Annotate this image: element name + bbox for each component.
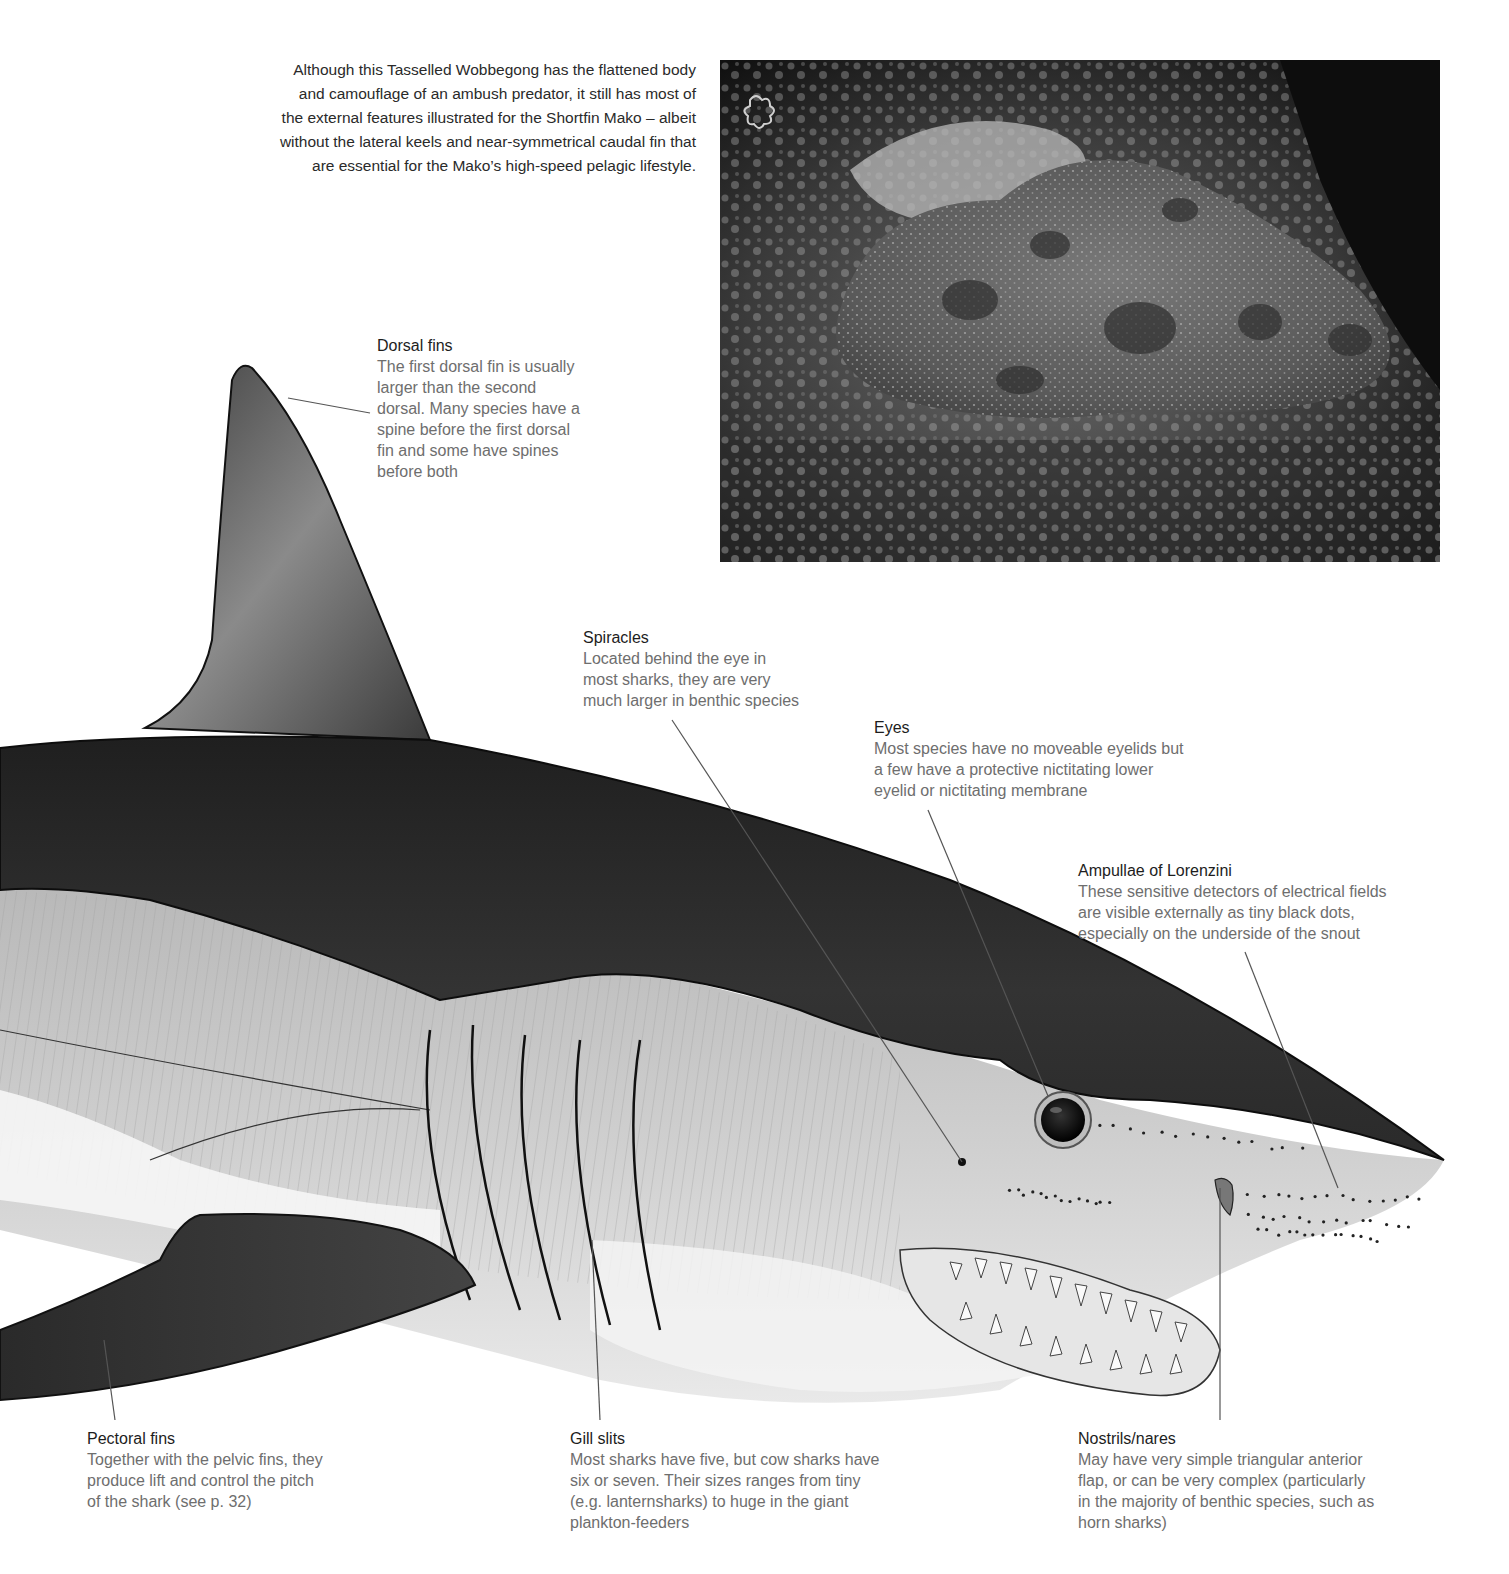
ampulla-dot: [1129, 1127, 1132, 1130]
label-line: May have very simple triangular anterior: [1078, 1449, 1374, 1470]
ampulla-dot: [1397, 1225, 1400, 1228]
ampulla-dot: [1256, 1228, 1259, 1231]
leader-line-dorsal: [288, 398, 370, 413]
ampulla-dot: [1335, 1219, 1338, 1222]
label-line: Most sharks have five, but cow sharks ha…: [570, 1449, 879, 1470]
ampulla-dot: [1417, 1198, 1420, 1201]
label-title: Gill slits: [570, 1428, 879, 1449]
ampulla-dot: [1385, 1223, 1388, 1226]
label-title: Nostrils/nares: [1078, 1428, 1374, 1449]
ampulla-dot: [1078, 1197, 1081, 1200]
ampulla-dot: [1340, 1233, 1343, 1236]
ampulla-dot: [1246, 1193, 1249, 1196]
ampulla-dot: [1223, 1137, 1226, 1140]
ampulla-dot: [1099, 1201, 1102, 1204]
label-dorsal-fins: Dorsal fins The first dorsal fin is usua…: [377, 335, 580, 482]
ampulla-dot: [1369, 1219, 1372, 1222]
ampulla-dot: [1237, 1141, 1240, 1144]
label-line: Together with the pelvic fins, they: [87, 1449, 323, 1470]
ampulla-dot: [1376, 1240, 1379, 1243]
label-pectoral-fins: Pectoral fins Together with the pelvic f…: [87, 1428, 323, 1512]
label-ampullae-of-lorenzini: Ampullae of Lorenzini These sensitive de…: [1078, 860, 1387, 944]
label-nostrils-nares: Nostrils/nares May have very simple tria…: [1078, 1428, 1374, 1533]
label-title: Spiracles: [583, 627, 799, 648]
ampulla-dot: [1325, 1194, 1328, 1197]
ampulla-dot: [1263, 1195, 1266, 1198]
ampulla-dot: [1308, 1220, 1311, 1223]
label-line: in the majority of benthic species, such…: [1078, 1491, 1374, 1512]
ampulla-dot: [1382, 1199, 1385, 1202]
ampulla-dot: [1369, 1237, 1372, 1240]
ampulla-dot: [1311, 1233, 1314, 1236]
ampulla-dot: [1314, 1195, 1317, 1198]
ampulla-dot: [1288, 1230, 1291, 1233]
ampulla-dot: [1362, 1219, 1365, 1222]
label-eyes: Eyes Most species have no moveable eyeli…: [874, 717, 1184, 801]
ampulla-dot: [1341, 1194, 1344, 1197]
label-line: The first dorsal fin is usually: [377, 356, 580, 377]
ampulla-dot: [1295, 1230, 1298, 1233]
ampulla-dot: [1281, 1146, 1284, 1149]
ampulla-dot: [1287, 1195, 1290, 1198]
ampulla-dot: [1206, 1135, 1209, 1138]
ampulla-dot: [1352, 1234, 1355, 1237]
label-line: six or seven. Their sizes ranges from ti…: [570, 1470, 879, 1491]
ampulla-dot: [1031, 1190, 1034, 1193]
label-line: fin and some have spines: [377, 440, 580, 461]
label-title: Pectoral fins: [87, 1428, 323, 1449]
label-line: larger than the second: [377, 377, 580, 398]
label-gill-slits: Gill slits Most sharks have five, but co…: [570, 1428, 879, 1533]
ampulla-dot: [1040, 1192, 1043, 1195]
ampulla-dot: [1345, 1221, 1348, 1224]
ampulla-dot: [1095, 1202, 1098, 1205]
label-line: especially on the underside of the snout: [1078, 923, 1387, 944]
label-line: most sharks, they are very: [583, 669, 799, 690]
label-title: Dorsal fins: [377, 335, 580, 356]
ampulla-dot: [1098, 1124, 1101, 1127]
label-line: plankton-feeders: [570, 1512, 879, 1533]
ampulla-dot: [1352, 1198, 1355, 1201]
label-line: of the shark (see p. 32): [87, 1491, 323, 1512]
ampulla-dot: [1282, 1215, 1285, 1218]
label-line: horn sharks): [1078, 1512, 1374, 1533]
ampulla-dot: [1112, 1124, 1115, 1127]
ampulla-dot: [1272, 1218, 1275, 1221]
ampulla-dot: [1300, 1197, 1303, 1200]
ampulla-dot: [1298, 1216, 1301, 1219]
ampulla-dot: [1142, 1131, 1145, 1134]
label-line: much larger in benthic species: [583, 690, 799, 711]
ampulla-dot: [1008, 1189, 1011, 1192]
ampulla-dot: [1322, 1220, 1325, 1223]
ampulla-dot: [1022, 1194, 1025, 1197]
ampulla-dot: [1270, 1147, 1273, 1150]
ampulla-dot: [1192, 1132, 1195, 1135]
ampulla-dot: [1277, 1193, 1280, 1196]
ampulla-dot: [1265, 1228, 1268, 1231]
label-title: Eyes: [874, 717, 1184, 738]
label-line: These sensitive detectors of electrical …: [1078, 881, 1387, 902]
ampulla-dot: [1054, 1194, 1057, 1197]
ampulla-dot: [1277, 1234, 1280, 1237]
label-spiracles: Spiracles Located behind the eye in most…: [583, 627, 799, 711]
ampulla-dot: [1303, 1233, 1306, 1236]
ampulla-dot: [1262, 1216, 1265, 1219]
ampulla-dot: [1359, 1235, 1362, 1238]
label-line: a few have a protective nictitating lowe…: [874, 759, 1184, 780]
ampulla-dot: [1108, 1201, 1111, 1204]
ampulla-dot: [1406, 1195, 1409, 1198]
ampulla-dot: [1250, 1140, 1253, 1143]
ampulla-dot: [1368, 1200, 1371, 1203]
label-title: Ampullae of Lorenzini: [1078, 860, 1387, 881]
ampulla-dot: [1247, 1213, 1250, 1216]
label-line: spine before the first dorsal: [377, 419, 580, 440]
ampulla-dot: [1045, 1196, 1048, 1199]
ampulla-dot: [1086, 1199, 1089, 1202]
ampulla-dot: [1017, 1188, 1020, 1191]
ampulla-dot: [1301, 1147, 1304, 1150]
label-line: eyelid or nictitating membrane: [874, 780, 1184, 801]
ampulla-dot: [1407, 1225, 1410, 1228]
ampulla-dot: [1174, 1135, 1177, 1138]
label-line: (e.g. lanternsharks) to huge in the gian…: [570, 1491, 879, 1512]
ampulla-dot: [1334, 1233, 1337, 1236]
label-line: before both: [377, 461, 580, 482]
